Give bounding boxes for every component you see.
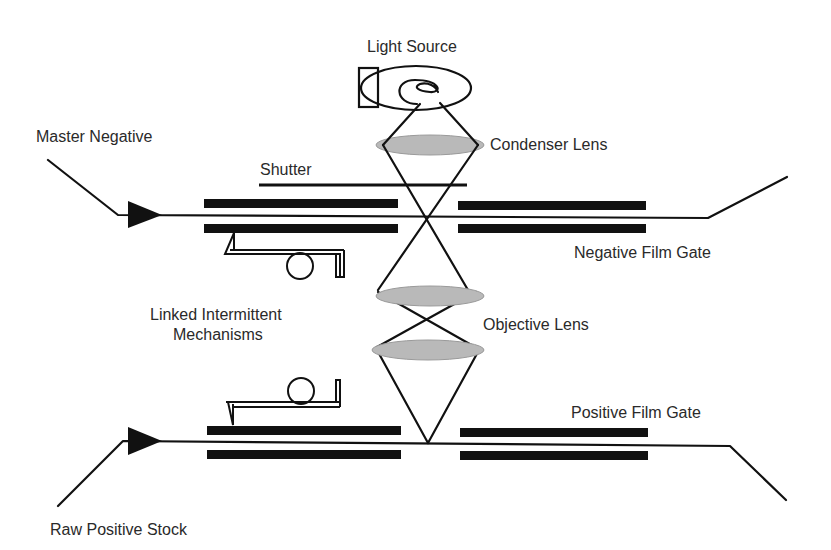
linked-mechanisms-label-line1: Linked Intermittent bbox=[150, 306, 282, 323]
condenser-lens-label: Condenser Lens bbox=[490, 136, 607, 153]
light-source bbox=[359, 66, 471, 110]
positive-gate-plate-top-left bbox=[207, 426, 401, 435]
negative-film-gate-label: Negative Film Gate bbox=[574, 244, 711, 261]
linked-mechanisms-label-line2: Mechanisms bbox=[173, 326, 263, 343]
master-negative-label: Master Negative bbox=[36, 128, 153, 145]
negative-gate-plate-bottom-left bbox=[204, 224, 398, 233]
negative-gate-plate-top-left bbox=[204, 199, 398, 208]
lower-intermittent-mechanism bbox=[226, 378, 340, 425]
raw-positive-stock-label: Raw Positive Stock bbox=[50, 521, 188, 538]
negative-feed-arrow-icon bbox=[128, 201, 162, 228]
positive-feed-arrow-icon bbox=[128, 427, 162, 455]
optical-printer-diagram: Light Source Condenser Lens Shutter Mast… bbox=[0, 0, 831, 550]
filament-spiral-icon bbox=[399, 80, 438, 104]
positive-gate-plate-bottom-right bbox=[460, 451, 648, 460]
negative-gate-plate-bottom-right bbox=[458, 224, 646, 233]
negative-gate-plate-top-right bbox=[458, 201, 646, 210]
master-negative-film-path bbox=[48, 160, 787, 218]
objective-lens-label: Objective Lens bbox=[483, 316, 589, 333]
positive-gate-plate-bottom-left bbox=[207, 450, 401, 459]
objective-lens-lower bbox=[372, 340, 484, 360]
raw-positive-film-path bbox=[58, 441, 786, 506]
lower-cam-wheel-icon bbox=[288, 378, 314, 404]
light-source-label: Light Source bbox=[367, 38, 457, 55]
upper-intermittent-mechanism bbox=[225, 233, 344, 279]
shutter-label: Shutter bbox=[260, 161, 312, 178]
positive-gate-plate-top-right bbox=[460, 428, 648, 437]
positive-film-gate-label: Positive Film Gate bbox=[571, 404, 701, 421]
objective-lens-upper bbox=[376, 286, 484, 306]
condenser-lens bbox=[376, 135, 484, 155]
upper-cam-wheel-icon bbox=[287, 253, 313, 279]
